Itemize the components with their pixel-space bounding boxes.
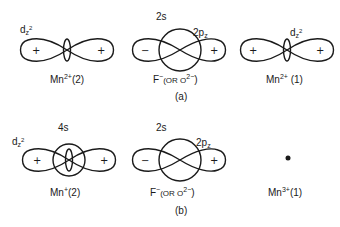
sign-plus: + (316, 45, 324, 56)
sign-plus: + (33, 155, 41, 166)
orbital-label-2s: 2s (156, 122, 167, 133)
sign-minus: − (141, 155, 149, 166)
orbital-label-2s: 2s (156, 11, 167, 22)
sign-plus: + (210, 45, 218, 56)
panel-a: + + dz2 Mn2+(2) − + 2s 2pz F−(OR O2−) (a… (20, 11, 334, 102)
species-label: F−(OR O2−) (150, 186, 195, 198)
orbital-label-dz2: dz2 (20, 24, 33, 36)
2pz-left-lobe (133, 39, 181, 61)
orbital-label-dz2: dz2 (12, 136, 25, 148)
sign-plus: + (210, 155, 218, 166)
panel-b: + + dz2 4s Mn+(2) − + 2s 2pz F−(OR O2−) … (12, 122, 302, 216)
dz2-right-lobe (287, 39, 334, 61)
sign-plus: + (97, 45, 105, 56)
dz2-right-lobe (69, 149, 116, 171)
dz2-left-lobe (21, 39, 68, 61)
orbital-label-2pz: 2pz (196, 137, 211, 149)
species-label: Mn3+(1) (268, 186, 302, 198)
species-label: Mn2+ (1) (266, 73, 303, 85)
species-label: Mn2+(2) (50, 73, 84, 85)
mn2plus-1-dz2-orbital: + + dz2 Mn2+ (1) (241, 27, 334, 85)
species-label: Mn+(2) (50, 186, 80, 198)
2pz-right-lobe (180, 149, 226, 171)
orbital-label-4s: 4s (58, 122, 69, 133)
dz2-left-lobe (241, 39, 288, 61)
orbital-label-2pz: 2pz (193, 27, 208, 39)
panel-caption: (a) (175, 91, 187, 102)
2pz-left-lobe (133, 149, 181, 171)
panel-caption: (b) (175, 205, 187, 216)
species-label: F−(OR O2−) (153, 73, 198, 85)
sign-plus: + (32, 45, 40, 56)
point-dot (286, 156, 291, 161)
orbital-label-dz2: dz2 (290, 27, 303, 39)
dz2-right-lobe (67, 39, 114, 61)
sign-plus: + (100, 155, 108, 166)
fluoride-b-orbitals: − + 2s 2pz F−(OR O2−) (b) (133, 122, 226, 216)
orbital-diagram: + + dz2 Mn2+(2) − + 2s 2pz F−(OR O2−) (a… (0, 0, 340, 227)
mn2plus-2-dz2-orbital: + + dz2 Mn2+(2) (20, 24, 114, 85)
mn3plus-1-point: Mn3+(1) (268, 156, 302, 199)
2pz-right-lobe (180, 39, 226, 61)
sign-plus: + (249, 45, 257, 56)
fluoride-a-orbitals: − + 2s 2pz F−(OR O2−) (a) (133, 11, 226, 102)
sign-minus: − (141, 45, 149, 56)
dz2-left-lobe (23, 149, 70, 171)
mnplus-2-orbitals: + + dz2 4s Mn+(2) (12, 122, 116, 198)
